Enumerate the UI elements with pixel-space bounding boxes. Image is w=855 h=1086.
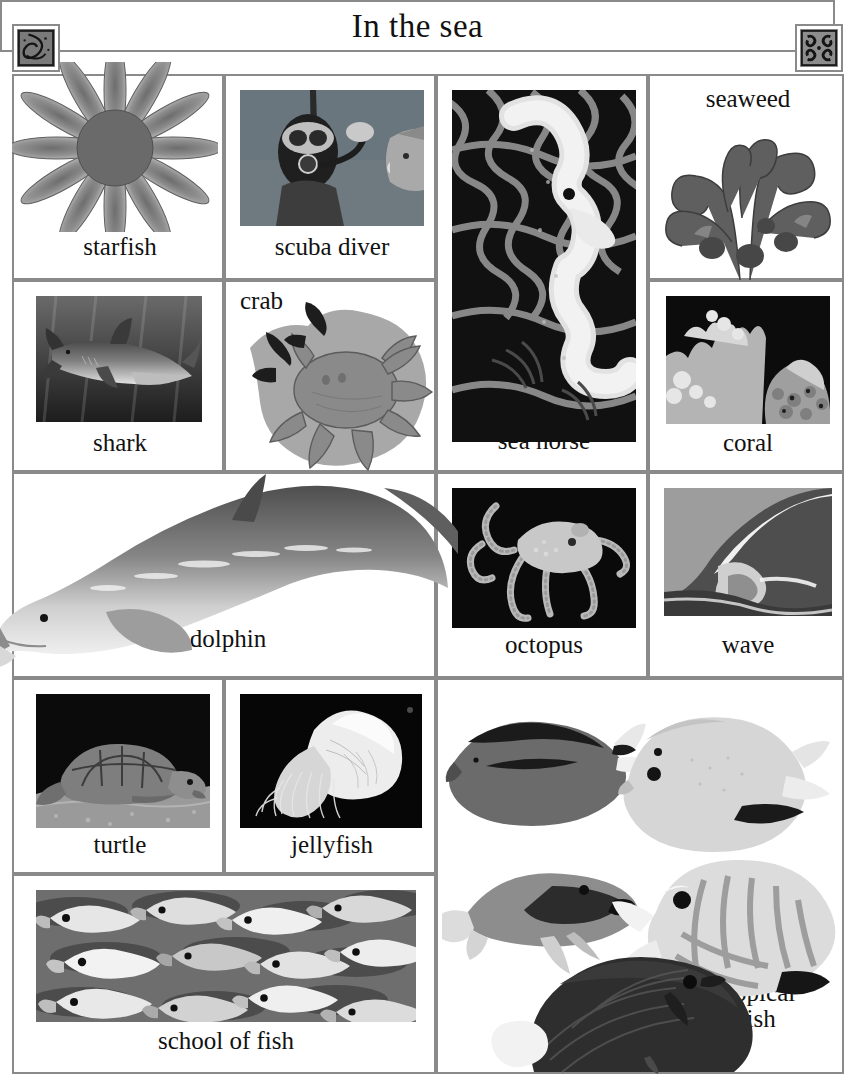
- seaweed-photo: [654, 122, 844, 280]
- shark-photo: [36, 296, 202, 422]
- jellyfish-photo: [240, 694, 422, 828]
- entry-label-wave: wave: [650, 632, 846, 658]
- coral-photo: [666, 296, 830, 424]
- entry-label-turtle: turtle: [14, 832, 226, 858]
- entry-cell-sea-horse[interactable]: sea horse: [436, 74, 648, 472]
- entry-label-octopus: octopus: [438, 632, 650, 658]
- picture-dictionary-page: In the sea: [0, 0, 855, 1086]
- entry-label-shark: shark: [14, 430, 226, 456]
- turtle-photo: [36, 694, 210, 828]
- entry-label-coral: coral: [650, 430, 846, 456]
- entry-cell-coral[interactable]: coral: [648, 280, 844, 472]
- entry-label-school-of-fish: school of fish: [14, 1028, 438, 1054]
- scuba-diver-photo: [240, 90, 424, 226]
- page-title: In the sea: [0, 0, 835, 52]
- shell-ornament-icon: [12, 24, 60, 72]
- title-bar: In the sea: [0, 0, 835, 52]
- school-of-fish-photo: [36, 890, 416, 1022]
- entry-cell-jellyfish[interactable]: jellyfish: [224, 678, 436, 874]
- crab-photo: [232, 296, 440, 486]
- dolphin-photo: [0, 470, 458, 700]
- entry-label-starfish: starfish: [14, 234, 226, 260]
- sea-horse-photo: [452, 90, 636, 442]
- entry-cell-school-of-fish[interactable]: school of fish: [12, 874, 436, 1074]
- entry-cell-turtle[interactable]: turtle: [12, 678, 224, 874]
- coral-knot-ornament-icon: [795, 24, 843, 72]
- wave-photo: [664, 488, 832, 616]
- entry-label-scuba-diver: scuba diver: [226, 234, 438, 260]
- octopus-photo: [452, 488, 636, 628]
- entry-label-sea-horse: sea horse: [438, 428, 650, 454]
- entry-cell-scuba-diver[interactable]: scuba diver: [224, 74, 436, 280]
- entry-label-seaweed: seaweed: [650, 86, 846, 112]
- entry-cell-shark[interactable]: shark: [12, 280, 224, 472]
- entry-label-jellyfish: jellyfish: [226, 832, 438, 858]
- tropical-fish-photo: [442, 684, 840, 1074]
- entry-cell-wave[interactable]: wave: [648, 472, 844, 678]
- starfish-photo: [12, 62, 218, 232]
- entry-cell-octopus[interactable]: octopus: [436, 472, 648, 678]
